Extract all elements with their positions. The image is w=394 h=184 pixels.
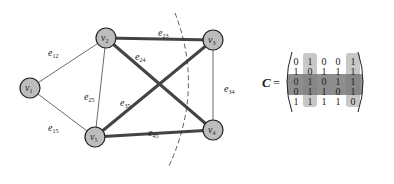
edge-label-e34: e34 (224, 83, 234, 95)
edge-label-e15: e15 (48, 122, 58, 134)
edge-label-e24: e24 (135, 51, 145, 63)
edge-label-e23: e23 (158, 27, 168, 39)
edge-label-e35: e35 (120, 97, 130, 109)
matrix-cell-r5-c1: 1 (294, 96, 299, 107)
edge-label-e45: e45 (148, 127, 158, 139)
matrix-equals: = (273, 76, 280, 90)
graph-diagram: e12e15e25e23e24e35e45e34 v1v2v3v4v5 C=01… (0, 0, 394, 184)
node-v4: v4 (203, 120, 223, 140)
edge-e35 (95, 40, 213, 137)
node-v5: v5 (85, 127, 105, 147)
node-v2: v2 (96, 28, 116, 48)
matrix-cell-r5-c4: 1 (336, 96, 341, 107)
edge-label-e12: e12 (48, 47, 58, 59)
edge-e25 (95, 38, 106, 137)
matrix-c: C=0100110111010110110111110 (262, 52, 363, 112)
edge-label-e25: e25 (84, 91, 94, 103)
cut-line (168, 13, 188, 168)
edge-e12 (30, 38, 106, 88)
edge-e23 (106, 38, 213, 40)
matrix-cell-r5-c2: 1 (308, 96, 313, 107)
matrix-label: C (262, 75, 271, 90)
node-v1: v1 (20, 78, 40, 98)
matrix-cell-r5-c3: 1 (322, 96, 327, 107)
node-v3: v3 (203, 30, 223, 50)
matrix-cell-r5-c5: 0 (351, 96, 356, 107)
